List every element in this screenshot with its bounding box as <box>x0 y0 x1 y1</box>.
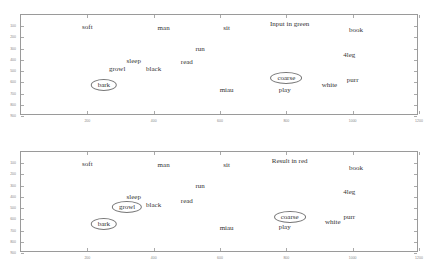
y-tick-mark <box>414 208 417 209</box>
y-tick-mark <box>21 82 24 83</box>
word-label-4leg: 4leg <box>343 188 355 196</box>
x-tick-mark <box>286 152 287 155</box>
word-label-miau: miau <box>220 86 234 94</box>
y-tick-mark <box>414 231 417 232</box>
x-tick-mark <box>286 15 287 18</box>
y-tick-mark <box>21 60 24 61</box>
y-tick-mark <box>21 253 24 254</box>
y-tick-mark <box>21 37 24 38</box>
word-label-growl: growl <box>112 201 142 213</box>
word-label-man: man <box>158 161 170 169</box>
x-tick-mark <box>154 152 155 155</box>
word-label-read: read <box>181 197 193 205</box>
y-tick-label: 200 <box>2 172 16 176</box>
plot-input: 1002003004005006007008009002004006008001… <box>20 14 418 115</box>
x-tick-mark <box>220 152 221 155</box>
y-tick-mark <box>21 49 24 50</box>
x-tick-label: 600 <box>210 256 230 260</box>
word-label-sit: sit <box>223 24 230 32</box>
y-tick-mark <box>21 116 24 117</box>
x-tick-label: 400 <box>144 119 164 123</box>
word-label-book: book <box>349 164 363 172</box>
plot-title: Result in red <box>272 157 308 165</box>
y-tick-mark <box>21 94 24 95</box>
y-tick-mark <box>414 60 417 61</box>
y-tick-mark <box>414 71 417 72</box>
y-tick-label: 700 <box>2 229 16 233</box>
figure-caption <box>170 266 240 274</box>
y-tick-mark <box>414 253 417 254</box>
y-tick-label: 300 <box>2 184 16 188</box>
y-tick-mark <box>21 163 24 164</box>
y-tick-label: 600 <box>2 80 16 84</box>
word-label-book: book <box>349 26 363 34</box>
y-tick-label: 700 <box>2 92 16 96</box>
plot-title: Input in green <box>270 20 309 28</box>
y-tick-label: 400 <box>2 58 16 62</box>
x-tick-mark <box>419 111 420 114</box>
x-tick-label: 200 <box>77 256 97 260</box>
word-label-sleep: sleep <box>127 57 141 65</box>
word-label-sleep: sleep <box>127 193 141 201</box>
x-tick-mark <box>154 248 155 251</box>
word-label-play: play <box>279 86 291 94</box>
y-tick-mark <box>21 186 24 187</box>
x-tick-mark <box>87 15 88 18</box>
word-label-purr: purr <box>347 76 359 84</box>
y-tick-mark <box>414 219 417 220</box>
y-tick-mark <box>414 26 417 27</box>
word-label-4leg: 4leg <box>343 51 355 59</box>
x-tick-mark <box>353 111 354 114</box>
y-tick-mark <box>21 242 24 243</box>
x-tick-mark <box>220 111 221 114</box>
word-label-play: play <box>279 223 291 231</box>
y-tick-label: 600 <box>2 217 16 221</box>
y-tick-label: 900 <box>2 114 16 118</box>
x-tick-label: 1000 <box>343 119 363 123</box>
x-tick-label: 800 <box>276 256 296 260</box>
x-tick-mark <box>419 152 420 155</box>
word-label-man: man <box>158 24 170 32</box>
y-tick-label: 400 <box>2 195 16 199</box>
y-tick-label: 300 <box>2 47 16 51</box>
x-tick-mark <box>419 15 420 18</box>
y-tick-label: 800 <box>2 240 16 244</box>
y-tick-mark <box>414 82 417 83</box>
y-tick-mark <box>414 105 417 106</box>
x-tick-mark <box>353 152 354 155</box>
x-tick-mark <box>87 111 88 114</box>
y-tick-mark <box>414 197 417 198</box>
x-tick-mark <box>286 248 287 251</box>
y-tick-mark <box>21 26 24 27</box>
x-tick-label: 200 <box>77 119 97 123</box>
word-label-read: read <box>181 58 193 66</box>
word-label-miau: miau <box>220 224 234 232</box>
y-tick-mark <box>21 208 24 209</box>
word-label-purr: purr <box>344 213 356 221</box>
y-tick-mark <box>21 197 24 198</box>
word-label-black: black <box>146 201 161 209</box>
word-label-bark: bark <box>91 79 117 91</box>
word-label-black: black <box>146 65 161 73</box>
word-label-growl: growl <box>109 65 125 73</box>
word-label-coarse: coarse <box>270 72 302 84</box>
word-label-soft: soft <box>82 23 93 31</box>
y-tick-label: 500 <box>2 69 16 73</box>
x-tick-mark <box>154 111 155 114</box>
word-label-soft: soft <box>82 160 93 168</box>
y-tick-mark <box>414 49 417 50</box>
y-tick-mark <box>414 94 417 95</box>
y-tick-mark <box>414 174 417 175</box>
y-tick-label: 800 <box>2 103 16 107</box>
x-tick-mark <box>154 15 155 18</box>
plot-result: 1002003004005006007008009002004006008001… <box>20 151 418 252</box>
x-tick-mark <box>353 15 354 18</box>
word-label-run: run <box>195 45 204 53</box>
y-tick-mark <box>21 174 24 175</box>
y-tick-label: 500 <box>2 206 16 210</box>
x-tick-mark <box>87 152 88 155</box>
y-tick-label: 900 <box>2 251 16 255</box>
y-tick-mark <box>414 37 417 38</box>
y-tick-label: 100 <box>2 24 16 28</box>
word-label-white: white <box>325 218 341 226</box>
